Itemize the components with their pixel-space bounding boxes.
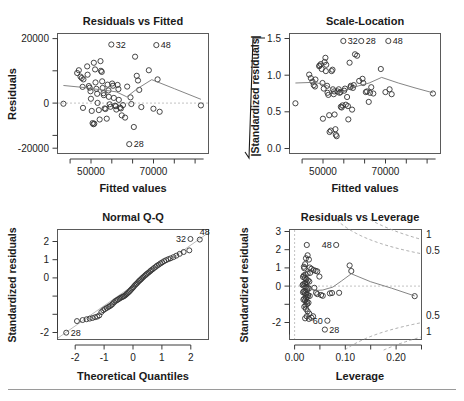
data-point [98,59,103,64]
panel-title-normal-qq: Normal Q-Q [102,211,164,223]
cooks-label: 0.5 [426,245,440,256]
diagnostic-plot-figure: Residuals vs Fitted 20000 0 -20000 Resid… [0,0,464,401]
y-axis-label-std-residuals: Standardized residuals [238,227,250,342]
data-point [157,109,162,114]
data-point [104,116,109,121]
x-axis-label-fitted-values: Fitted values [331,182,398,194]
panel-title-residuals-vs-leverage: Residuals vs Leverage [301,211,420,223]
data-point [317,274,322,279]
y-tick-label: 1 [275,262,281,273]
y-tick-label: 0 [43,272,49,283]
cooks-distance-contours [337,220,421,350]
data-point [346,117,351,122]
data-point [106,94,111,99]
data-point [96,108,101,113]
data-point [293,101,298,106]
data-point [332,112,337,117]
cooks-distance-contour [345,323,421,350]
x-axis-label-leverage: Leverage [336,370,384,382]
data-point [95,91,100,96]
cooks-label: 0.5 [426,310,440,321]
data-point [313,290,318,295]
data-point [311,83,316,88]
y-tick-label: 3 [275,226,281,237]
data-point [334,242,339,247]
data-point [325,318,330,323]
data-point [321,86,326,91]
x-tick-label: 70000 [140,166,168,177]
data-point [97,117,102,122]
data-point [74,319,79,324]
data-point [322,327,327,332]
data-point [151,106,156,111]
x-tick-label: 70000 [372,166,400,177]
data-point [198,103,203,108]
panel-residuals-vs-leverage: Residuals vs Leverage 3 2 1 0 -2 Standar… [232,196,464,396]
data-point [389,92,394,97]
cooks-distance-contour [337,220,421,254]
data-point [320,116,325,121]
data-point [129,101,134,106]
data-point [387,87,392,92]
data-point [430,91,435,96]
panel-scale-location: Scale-Location 1.5 1.0 0.5 0.0 |Standard… [232,0,464,196]
data-point [304,242,309,247]
x-tick-label: 0 [130,352,136,363]
data-point [135,78,140,83]
data-point [378,66,383,71]
y-axis-label-sqrt-std-residuals: |Standardized residuals| [249,36,261,157]
data-point [312,84,317,89]
cooks-label: 1 [426,229,432,240]
footer-divider [8,389,456,390]
data-point [88,89,93,94]
y-axis: 2 1 0 -2 [40,236,57,338]
x-tick-label: -1 [100,352,109,363]
point-label: 28 [329,325,339,335]
x-tick-label: 0.00 [285,352,305,363]
y-axis-label-residuals: Residuals [6,68,18,120]
x-axis: 50000 70000 [302,159,436,177]
data-point [139,104,144,109]
data-point [327,113,332,118]
x-tick-label: 0.10 [336,352,356,363]
cooks-label: 1 [426,326,432,337]
data-point [88,96,93,101]
data-point [89,108,94,113]
point-label: 32 [176,234,186,244]
data-point [366,99,371,104]
y-tick-label: -20000 [18,143,50,154]
data-point [347,263,352,268]
y-tick-label: 0 [275,281,281,292]
x-tick-label: 2 [188,352,194,363]
x-axis-label-theoretical-quantiles: Theoretical Quantiles [77,370,189,382]
data-point [359,38,364,43]
y-tick-label: 0.0 [267,143,281,154]
data-point [80,105,85,110]
y-tick-label: 1 [43,254,49,265]
cooks-distance-labels: 1 0.5 0.5 1 [426,229,440,337]
data-point [100,79,105,84]
data-point [91,60,96,65]
x-tick-label: 50000 [309,166,337,177]
y-tick-label: 20000 [21,33,49,44]
panel-normal-qq: Normal Q-Q 2 1 0 -2 Standardized residua… [0,196,232,396]
scatter-points [64,236,203,335]
data-point [111,95,116,100]
y-tick-label: 0.5 [267,106,281,117]
data-point [333,127,338,132]
data-point [92,67,97,72]
x-tick-label: 0.20 [386,352,406,363]
point-label: 32 [116,40,126,50]
point-label: 28 [71,328,81,338]
data-point [127,142,132,147]
y-tick-label: 1.0 [267,70,281,81]
point-label: 28 [366,36,376,46]
point-label: 48 [393,36,403,46]
data-point [154,42,159,47]
data-point [371,91,376,96]
x-axis: 0.00 0.10 0.20 [285,345,422,363]
y-tick-label: 2 [275,244,281,255]
y-tick-label: -2 [40,327,49,338]
data-point [146,68,151,73]
y-axis: 3 2 1 0 -2 [272,226,289,335]
